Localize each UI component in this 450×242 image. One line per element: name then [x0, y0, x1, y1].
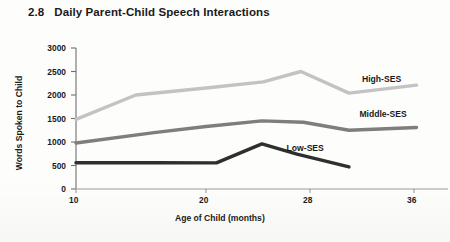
- y-axis-label: Words Spoken to Child: [14, 68, 24, 178]
- series-label-low-ses: Low-SES: [287, 143, 324, 153]
- y-axis-tick-label: 2500: [32, 67, 66, 77]
- x-axis-tick-label: 20: [199, 195, 208, 205]
- series-line-middle-ses: [76, 121, 417, 143]
- y-axis-tick-label: 0: [32, 184, 66, 194]
- x-axis-tick-label: 28: [303, 195, 312, 205]
- y-axis-tick-label: 3000: [32, 43, 66, 53]
- y-axis-tick-label: 2000: [32, 90, 66, 100]
- x-axis-label: Age of Child (months): [175, 213, 265, 223]
- series-label-middle-ses: Middle-SES: [359, 109, 406, 119]
- x-axis-tick-label: 10: [69, 195, 78, 205]
- line-chart: [0, 0, 450, 242]
- y-axis-tick-label: 500: [32, 161, 66, 171]
- y-axis-tick-label: 1500: [32, 114, 66, 124]
- chart-series: [76, 72, 417, 167]
- y-axis-tick-label: 1000: [32, 137, 66, 147]
- series-label-high-ses: High-SES: [362, 74, 401, 84]
- x-axis-tick-label: 36: [407, 195, 416, 205]
- figure-page: 2.8Daily Parent-Child Speech Interaction…: [0, 0, 450, 242]
